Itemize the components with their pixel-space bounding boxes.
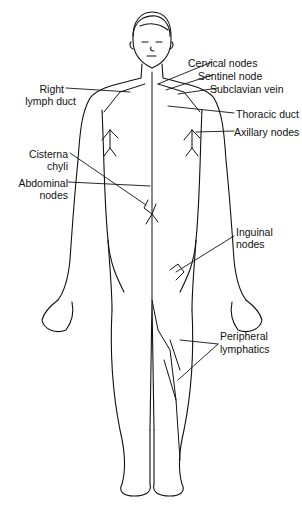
label-subclavian-vein: Subclavian vein [210,83,284,95]
label-axillary-nodes: Axillary nodes [234,126,299,138]
label-cervical-nodes: Cervical nodes [188,57,257,69]
label-cisterna-chyli-1: Cisterna [18,148,68,160]
label-cisterna-chyli-2: chyli [18,160,68,172]
label-sentinel-node: Sentinel node [198,70,262,82]
label-peripheral-lymphatics-2: lymphatics [220,343,270,355]
label-abdominal-nodes-1: Abdominal [6,177,68,189]
label-abdominal-nodes-2: nodes [6,189,68,201]
label-thoracic-duct: Thoracic duct [236,108,299,120]
label-inguinal-nodes-2: nodes [236,238,265,250]
label-right-lymph-duct-1: Right [26,83,64,95]
label-peripheral-lymphatics-1: Peripheral [220,330,268,342]
label-inguinal-nodes-1: Inguinal [236,226,273,238]
head [130,12,173,68]
leader-lines [66,62,234,380]
label-right-lymph-duct-2: lymph duct [14,95,76,107]
